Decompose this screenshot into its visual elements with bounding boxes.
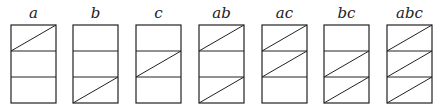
panel-frame	[73, 25, 118, 103]
panel-label: c	[154, 4, 163, 22]
diagonal-mark-a	[199, 25, 244, 51]
panel-label: ac	[276, 4, 294, 22]
diagonal-mark-a	[11, 25, 56, 51]
panel-abc: abc	[387, 4, 432, 103]
diagonal-mark-a	[387, 25, 432, 51]
diagonal-mark-b	[199, 77, 244, 103]
panel-bc: bc	[324, 4, 369, 103]
panel-a: a	[11, 4, 56, 103]
panel-b: b	[73, 4, 118, 103]
diagonal-mark-b	[387, 77, 432, 103]
panel-label: ab	[212, 4, 231, 22]
panel-label: bc	[337, 4, 356, 22]
diagonal-mark-c	[387, 51, 432, 77]
panel-label: a	[29, 4, 38, 22]
panel-frame	[11, 25, 56, 103]
diagonal-mark-b	[324, 77, 369, 103]
diagonal-mark-c	[324, 51, 369, 77]
diagonal-mark-c	[136, 51, 181, 77]
diagonal-mark-b	[73, 77, 118, 103]
diagonal-mark-c	[262, 51, 307, 77]
diagonal-mark-a	[262, 25, 307, 51]
panel-ab: ab	[199, 4, 244, 103]
panel-label: b	[91, 4, 101, 22]
panel-ac: ac	[262, 4, 307, 103]
panel-label: abc	[396, 4, 424, 22]
panel-c: c	[136, 4, 181, 103]
factorial-diagram: abcabacbcabc	[0, 0, 436, 109]
panel-frame	[199, 25, 244, 103]
